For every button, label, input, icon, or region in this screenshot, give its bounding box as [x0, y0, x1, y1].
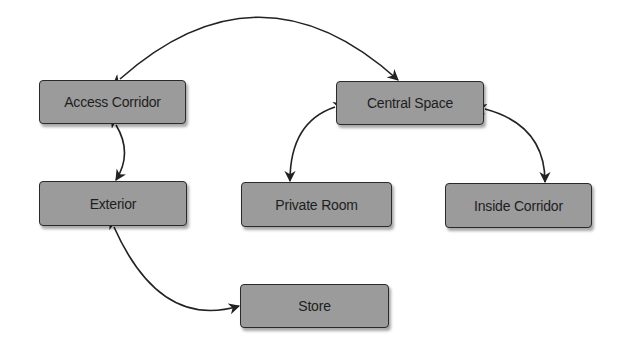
edge-access-corridor-to-central-space [120, 17, 398, 80]
edge-central-space-to-inside-corridor [485, 109, 545, 182]
node-central-space: Central Space [336, 81, 484, 125]
node-access-corridor: Access Corridor [39, 80, 186, 124]
edge-access-corridor-to-exterior [116, 125, 125, 180]
diagram-canvas: Access Corridor Central Space Exterior P… [0, 0, 618, 350]
node-label: Store [298, 298, 330, 314]
edge-exterior-to-store [114, 227, 239, 311]
node-store: Store [240, 284, 389, 328]
node-private-room: Private Room [241, 182, 392, 227]
node-label: Private Room [275, 197, 357, 213]
edge-central-space-to-private-room [290, 107, 335, 181]
node-label: Inside Corridor [474, 198, 563, 214]
node-exterior: Exterior [39, 181, 187, 226]
node-label: Central Space [367, 95, 453, 111]
node-label: Exterior [90, 196, 137, 212]
node-label: Access Corridor [64, 94, 161, 110]
node-inside-corridor: Inside Corridor [445, 183, 592, 228]
